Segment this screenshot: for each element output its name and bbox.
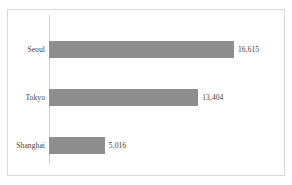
bar-row: Tokyo13,404 (49, 73, 284, 121)
bar-row: Shanghai5,016 (49, 121, 284, 169)
category-label: Seoul (27, 25, 49, 73)
bar-track: 13,404 (49, 73, 223, 121)
chart-frame: Seoul16,615Tokyo13,404Shanghai5,016 (7, 9, 285, 176)
category-label: Shanghai (16, 121, 49, 169)
bar (49, 41, 234, 58)
bar-value-label: 16,615 (238, 45, 259, 54)
bar-track: 5,016 (49, 121, 126, 169)
bar-row: Seoul16,615 (49, 25, 284, 73)
category-label: Tokyo (25, 73, 49, 121)
bar (49, 89, 198, 106)
plot-area: Seoul16,615Tokyo13,404Shanghai5,016 (49, 15, 284, 167)
bar-track: 16,615 (49, 25, 259, 73)
bar (49, 137, 105, 154)
bar-value-label: 13,404 (202, 93, 223, 102)
bar-value-label: 5,016 (109, 141, 126, 150)
